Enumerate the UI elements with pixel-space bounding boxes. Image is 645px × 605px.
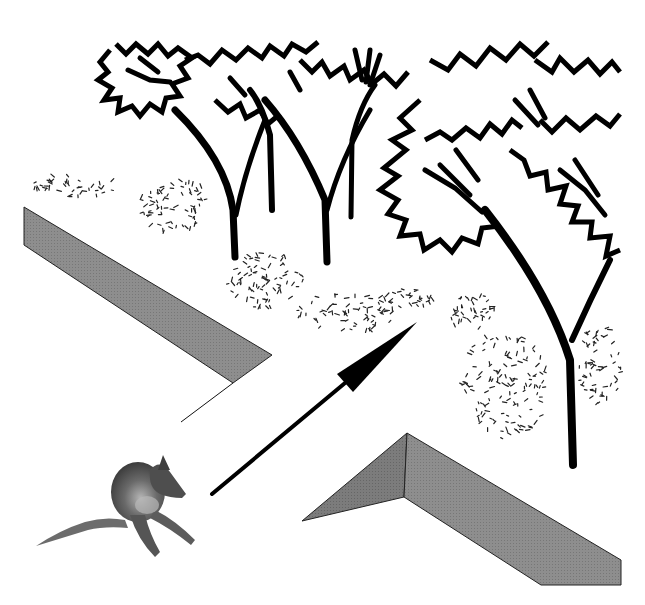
left-wall-ground-line <box>181 383 233 422</box>
tree-1-trunk <box>175 110 235 257</box>
arrow-head-icon <box>337 322 417 392</box>
illustration <box>0 0 645 605</box>
tree-4-trunk <box>351 85 375 217</box>
tree-1-branch <box>236 120 265 215</box>
tree-3-trunk <box>265 100 327 262</box>
tree-5-branch <box>572 260 610 340</box>
animal <box>36 455 195 557</box>
right-wall-main-face <box>404 433 621 585</box>
animal-tail <box>36 518 128 546</box>
animal-chest <box>135 496 159 514</box>
right-wall-side-face <box>302 433 407 521</box>
arrow-shaft <box>212 383 345 494</box>
animal-ear <box>158 455 170 470</box>
animal-hind-leg <box>130 515 160 557</box>
tree-3-branch <box>327 110 370 210</box>
animal-fore-leg <box>150 510 195 545</box>
scene-svg <box>0 0 645 605</box>
